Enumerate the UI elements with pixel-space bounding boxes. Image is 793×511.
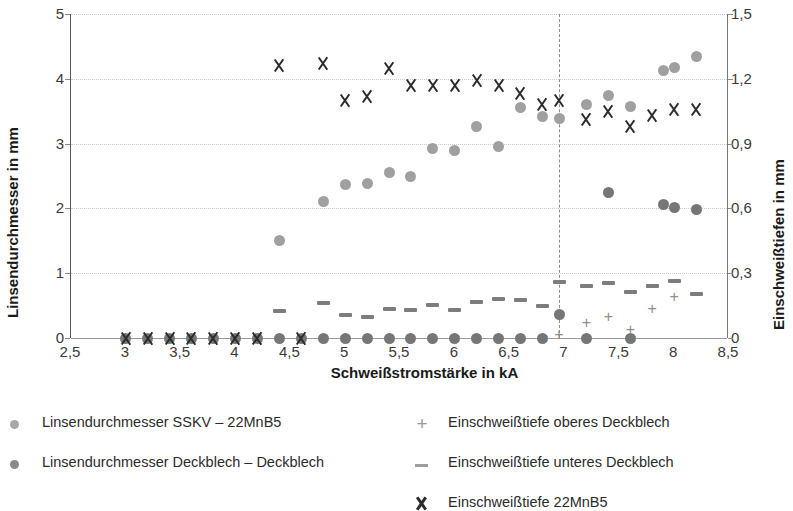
y-tick-label-left: 5 — [24, 6, 64, 21]
legend-plus-icon: + — [412, 416, 434, 432]
data-point-x — [316, 56, 331, 71]
data-point-circle — [658, 199, 669, 210]
data-point-x — [360, 89, 375, 104]
data-point-dash — [514, 298, 527, 302]
data-point-dash — [492, 297, 505, 301]
data-point-circle — [691, 51, 702, 62]
data-point-x — [552, 93, 567, 108]
x-tick-label: 7,5 — [595, 344, 641, 359]
data-point-circle — [603, 90, 614, 101]
data-point-circle — [537, 333, 548, 344]
y-tick-label-left: 1 — [24, 265, 64, 280]
data-point-dash — [448, 308, 461, 312]
data-point-dash — [317, 301, 330, 305]
data-point-dash — [426, 303, 439, 307]
data-point-x — [491, 78, 506, 93]
x-tick-label: 7 — [541, 344, 587, 359]
data-point-x — [469, 73, 484, 88]
data-point-circle — [554, 113, 565, 124]
data-point-x — [403, 78, 418, 93]
legend-item-label: Einschweißtiefe unteres Deckblech — [448, 454, 674, 470]
legend-item-label: Einschweißtiefe oberes Deckblech — [448, 414, 670, 430]
x-axis-title: Schweißstromstärke in kA — [0, 364, 793, 381]
data-point-x — [140, 331, 155, 346]
data-point-circle — [515, 102, 526, 113]
gridline — [71, 79, 727, 80]
data-point-circle — [537, 111, 548, 122]
x-axis-title-text: Schweißstromstärke in kA — [275, 364, 519, 381]
y-tick-mark-right — [728, 144, 733, 145]
data-point-circle — [405, 333, 416, 344]
x-tick-label: 6 — [431, 344, 477, 359]
chart-legend: Linsendurchmesser SSKV – 22MnB5Linsendur… — [0, 406, 793, 511]
data-point-circle — [471, 121, 482, 132]
x-tick-label: 8 — [650, 344, 696, 359]
data-point-x — [250, 331, 265, 346]
data-point-circle — [691, 204, 702, 215]
data-point-x — [338, 93, 353, 108]
legend-item-label: Linsendurchmesser SSKV – 22MnB5 — [42, 414, 281, 430]
data-point-plus: + — [624, 323, 637, 336]
data-point-circle — [669, 62, 680, 73]
y-tick-mark-right — [728, 208, 733, 209]
y-tick-mark-right — [728, 338, 733, 339]
data-point-x — [425, 78, 440, 93]
data-point-x — [118, 331, 133, 346]
data-point-dash — [404, 308, 417, 312]
y-tick-label-right: 0,6 — [731, 200, 777, 215]
data-point-x — [206, 331, 221, 346]
data-point-circle — [427, 143, 438, 154]
y-axis-title-right: Einschweißtiefen in mm — [770, 159, 787, 330]
data-point-dash — [383, 307, 396, 311]
data-point-circle — [658, 65, 669, 76]
legend-item-label: Linsendurchmesser Deckblech – Deckblech — [42, 454, 324, 470]
data-point-circle — [581, 99, 592, 110]
data-point-x — [184, 331, 199, 346]
data-point-dash — [553, 280, 566, 284]
data-point-circle — [318, 196, 329, 207]
y-tick-label-right: 0,3 — [731, 265, 777, 280]
data-point-dash — [580, 284, 593, 288]
gridline — [71, 273, 727, 274]
data-point-x — [382, 61, 397, 76]
data-point-circle — [274, 235, 285, 246]
data-point-circle — [340, 333, 351, 344]
data-point-circle — [405, 171, 416, 182]
data-point-x — [228, 331, 243, 346]
x-tick-label: 5 — [321, 344, 367, 359]
data-point-x — [513, 86, 528, 101]
data-point-dash — [624, 290, 637, 294]
x-tick-label: 2,5 — [47, 344, 93, 359]
data-point-x — [645, 108, 660, 123]
y-axis-title-left: Linsendurchmesser in mm — [4, 127, 21, 318]
data-point-circle — [362, 333, 373, 344]
legend-circle-light-icon — [6, 416, 28, 432]
data-point-x — [689, 102, 704, 117]
data-point-x — [579, 112, 594, 127]
data-point-dash — [361, 315, 374, 319]
data-point-x — [601, 104, 616, 119]
data-point-x — [667, 102, 682, 117]
data-point-x — [535, 97, 550, 112]
y-tick-label-left: 0 — [24, 330, 64, 345]
data-point-plus: + — [602, 310, 615, 323]
gridline — [71, 144, 727, 145]
data-point-x — [294, 331, 309, 346]
legend-x-icon — [412, 496, 434, 511]
data-point-dash — [536, 304, 549, 308]
data-point-dash — [602, 281, 615, 285]
data-point-circle — [274, 333, 285, 344]
x-tick-label: 3,5 — [157, 344, 203, 359]
data-point-dash — [273, 309, 286, 313]
y-tick-label-left: 2 — [24, 200, 64, 215]
data-point-circle — [603, 187, 614, 198]
data-point-circle — [384, 167, 395, 178]
y-tick-label-left: 3 — [24, 136, 64, 151]
data-point-circle — [449, 333, 460, 344]
data-point-circle — [669, 202, 680, 213]
x-tick-label: 4,5 — [266, 344, 312, 359]
data-point-plus: + — [580, 316, 593, 329]
vertical-threshold-line — [559, 14, 560, 338]
legend-dash-icon — [412, 456, 434, 472]
legend-item-label: Einschweißtiefe 22MnB5 — [448, 494, 608, 510]
